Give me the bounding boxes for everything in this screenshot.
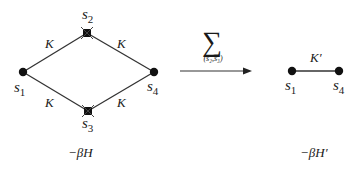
coupling-label-s1-s3: K xyxy=(44,95,55,110)
right-graph: K′ s1 s4 −βH′ xyxy=(285,50,345,160)
edge-s1-s3 xyxy=(23,72,88,111)
node-s2-decimated xyxy=(81,27,93,39)
sum-subscript: (s₂,s₃) xyxy=(203,54,222,63)
coupling-label-s3-s4: K xyxy=(116,95,127,110)
caption-right-hamiltonian: −βH′ xyxy=(300,145,328,160)
edge-s1-s2 xyxy=(23,33,87,72)
label-s2: s2 xyxy=(82,6,93,25)
left-graph xyxy=(23,33,154,111)
decimation-diagram: s2 s1 s4 s3 K K K K −βH ∑ (s₂,s₃) K′ s1 … xyxy=(0,0,362,172)
label-s4: s4 xyxy=(147,78,159,97)
node-s4-renormalized xyxy=(335,67,343,75)
label-s1-right: s1 xyxy=(285,77,296,96)
node-s4 xyxy=(150,68,158,76)
label-s4-right: s4 xyxy=(333,77,345,96)
coupling-label-s2-s4: K xyxy=(116,36,127,51)
label-s1: s1 xyxy=(14,79,25,98)
sum-symbol: ∑ xyxy=(202,26,222,57)
node-s1 xyxy=(19,68,27,76)
label-s3: s3 xyxy=(82,115,94,134)
node-s1-renormalized xyxy=(288,67,296,75)
caption-left-hamiltonian: −βH xyxy=(68,145,93,160)
right-arrow-icon xyxy=(180,68,252,75)
coupling-label-renormalized: K′ xyxy=(309,50,322,65)
coupling-label-s1-s2: K xyxy=(44,36,55,51)
